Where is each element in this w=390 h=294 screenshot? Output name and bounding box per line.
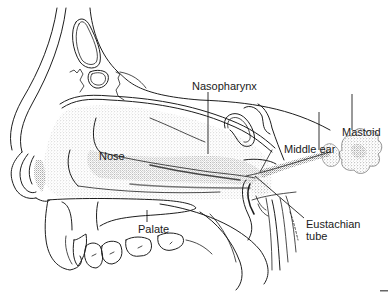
upper-jaw — [45, 200, 81, 270]
incisor-teeth — [65, 234, 86, 266]
label-tube: tube — [306, 230, 327, 242]
label-mastoid: Mastoid — [342, 126, 381, 138]
label-eustachian: Eustachian — [306, 218, 360, 230]
ethmoid-sinus — [88, 70, 108, 88]
label-nose: Nose — [99, 150, 125, 162]
molar-teeth — [84, 233, 212, 268]
frontal-sinus — [73, 19, 101, 68]
nasal-cavity — [43, 105, 273, 200]
label-nasopharynx: Nasopharynx — [192, 80, 257, 92]
pharynx-walls — [200, 192, 298, 290]
anatomy-diagram: Nasopharynx Nose Middle ear Mastoid Pala… — [0, 0, 390, 294]
label-middle-ear: Middle ear — [284, 143, 335, 155]
corner-mark — [380, 290, 388, 292]
label-palate: Palate — [138, 223, 169, 235]
